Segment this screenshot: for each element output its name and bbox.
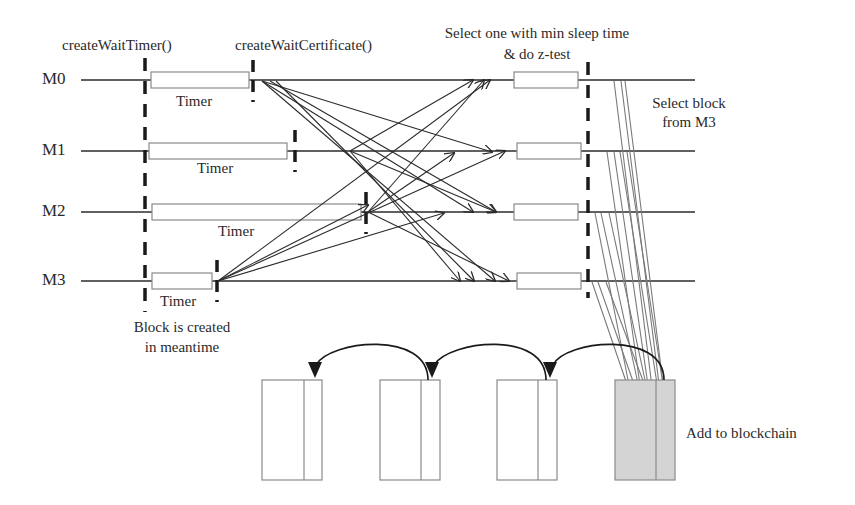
- label-block-created-line2: in meantime: [145, 338, 220, 356]
- label-create-wait-certificate: createWaitCertificate(): [235, 36, 372, 54]
- broadcast-arrows: [218, 80, 509, 281]
- machine-label-m0: M0: [42, 70, 66, 88]
- machine-label-m2: M2: [42, 202, 66, 220]
- label-select-min-line2: & do z-test: [504, 45, 571, 63]
- machine-label-m1: M1: [42, 141, 66, 159]
- ztest-box-m0: [514, 72, 578, 88]
- chain-arrowheads: [308, 362, 557, 378]
- block-1: [262, 380, 322, 480]
- label-add-to-blockchain: Add to blockchain: [686, 424, 797, 442]
- label-select-block-line2: from M3: [662, 113, 716, 131]
- block-new: [615, 380, 675, 480]
- ztest-boxes: [514, 72, 581, 289]
- label-select-min-line1: Select one with min sleep time: [445, 24, 630, 42]
- timer-box-m3: [152, 273, 212, 289]
- ztest-box-m2: [514, 204, 578, 220]
- block-3: [497, 380, 557, 480]
- ztest-box-m1: [517, 143, 581, 159]
- blockchain: [262, 380, 675, 480]
- chain-links: [316, 344, 664, 380]
- label-block-created-line1: Block is created: [134, 318, 231, 336]
- timer-label-m2: Timer: [218, 222, 254, 240]
- label-select-block-line1: Select block: [652, 94, 726, 112]
- timer-box-m0: [151, 72, 249, 88]
- timer-label-m1: Timer: [197, 159, 233, 177]
- timer-label-m3: Timer: [160, 292, 196, 310]
- label-create-wait-timer: createWaitTimer(): [62, 36, 172, 54]
- timer-label-m0: Timer: [176, 92, 212, 110]
- timer-box-m1: [149, 143, 287, 159]
- timer-box-m2: [152, 204, 361, 220]
- select-block-arrows: [592, 81, 668, 405]
- machine-label-m3: M3: [42, 271, 66, 289]
- block-2: [380, 380, 440, 480]
- ztest-box-m3: [517, 273, 581, 289]
